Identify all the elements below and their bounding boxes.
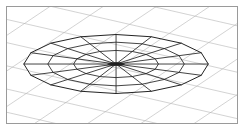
figure-root	[0, 0, 245, 131]
grid-line-family-a	[7, 68, 237, 123]
disc-hub-blob	[107, 62, 125, 66]
disc-center-hub	[107, 62, 125, 66]
disc-spoke	[116, 43, 181, 64]
disc-spoke	[51, 64, 116, 85]
grid-line-family-a	[7, 46, 237, 123]
figure-frame	[6, 6, 238, 124]
disc-spoke	[51, 43, 116, 64]
wireframe-scene	[7, 7, 237, 123]
grid-line-family-a	[7, 7, 237, 91]
